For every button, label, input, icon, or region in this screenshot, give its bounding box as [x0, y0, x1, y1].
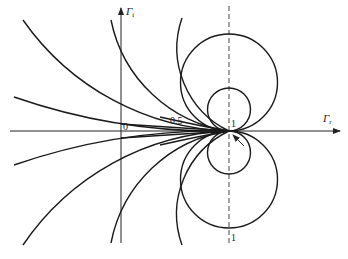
diagram-canvas — [0, 0, 348, 259]
curve-lower-b — [111, 131, 229, 243]
curve-upper-a — [23, 20, 229, 131]
label-one-top: 1 — [231, 119, 236, 129]
curve-lower-a — [23, 131, 229, 245]
label-zero: 0 — [123, 122, 128, 132]
gamma-i-label: Γi — [126, 6, 134, 19]
label-one-bottom: 1 — [231, 233, 236, 243]
convergence-arrow — [233, 135, 244, 146]
gamma-r-label: Γr — [323, 113, 332, 126]
label-half: 0.5 — [170, 116, 183, 126]
